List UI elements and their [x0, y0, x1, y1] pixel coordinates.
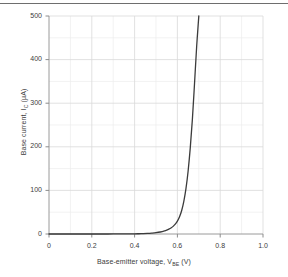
page-divider-rule [0, 3, 288, 4]
y-axis-title-subscript: C [23, 104, 29, 108]
x-tick-label: 0.6 [162, 242, 192, 249]
x-axis-title-subscript: BE [172, 261, 179, 267]
x-tick-label: 0.8 [205, 242, 235, 249]
y-axis-title-unit: (µA) [20, 89, 27, 103]
x-axis-title-unit: (V) [181, 258, 191, 265]
y-axis-title-text: Base current, I [20, 108, 27, 155]
iv-curve-chart [0, 6, 288, 277]
x-tick-label: 0 [34, 242, 64, 249]
chart-figure: 0 0.2 0.4 0.6 0.8 1.0 0 100 200 300 400 … [0, 6, 288, 277]
x-tick-label: 1.0 [248, 242, 278, 249]
y-axis-ticks [46, 16, 50, 234]
x-axis-title: Base-emitter voltage, VBE (V) [0, 258, 288, 265]
x-axis-title-text: Base-emitter voltage, V [97, 258, 172, 265]
x-tick-label: 0.4 [120, 242, 150, 249]
x-tick-label: 0.2 [77, 242, 107, 249]
y-axis-title: Base current, IC (µA) [20, 89, 27, 156]
figure-page: 0 0.2 0.4 0.6 0.8 1.0 0 100 200 300 400 … [0, 0, 288, 277]
y-axis-title-wrapper: Base current, IC (µA) [12, 12, 24, 232]
